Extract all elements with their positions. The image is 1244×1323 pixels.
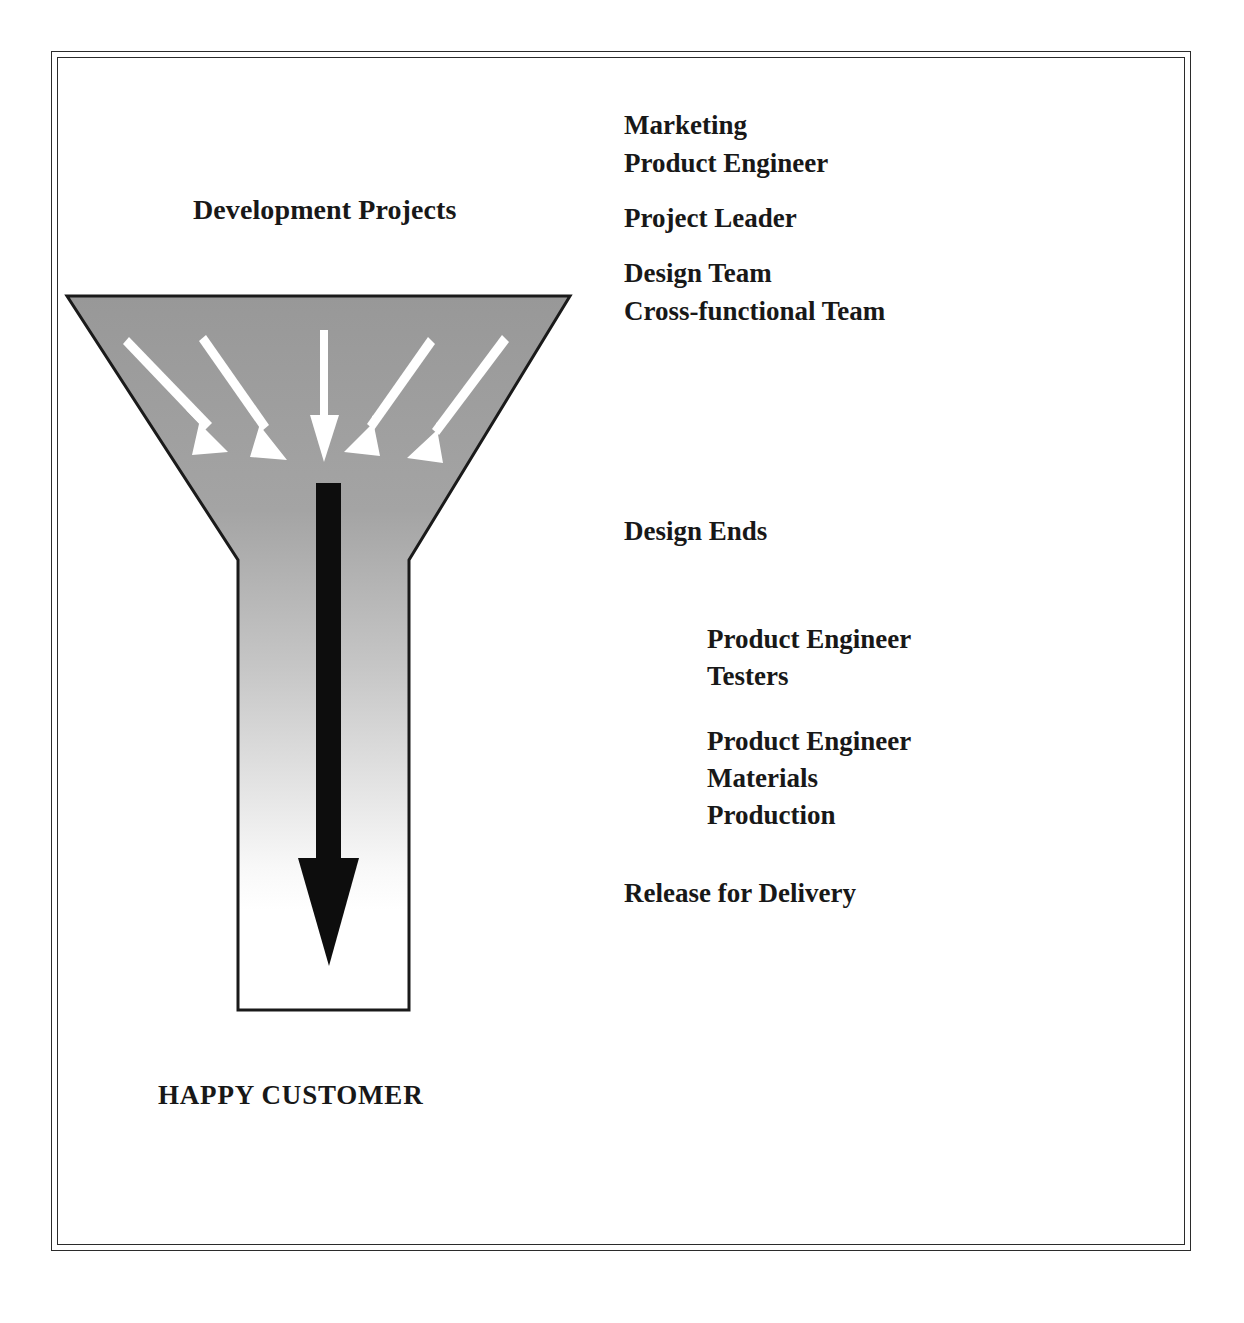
outcome-label-happy-customer: HAPPY CUSTOMER — [158, 1080, 423, 1111]
stage-label-materials: Materials — [707, 765, 911, 792]
stage-label-cross-functional-team: Cross-functional Team — [624, 298, 885, 325]
stage-label-marketing: Marketing — [624, 112, 885, 139]
stage-label-design-team: Design Team — [624, 260, 885, 287]
stage-group-inputs: Marketing Product Engineer Project Leade… — [624, 112, 885, 336]
stage-label-product-engineer-3: Product Engineer — [707, 728, 911, 755]
milestone-design-ends: Design Ends — [624, 518, 767, 545]
stage-group-downstream: Product Engineer Testers Product Enginee… — [707, 626, 911, 839]
milestone-release-for-delivery: Release for Delivery — [624, 880, 856, 907]
stage-label-testers: Testers — [707, 663, 911, 690]
stage-label-product-engineer-1: Product Engineer — [624, 150, 885, 177]
diagram-page: Development Projects Marketing Product E… — [0, 0, 1244, 1323]
stage-label-product-engineer-2: Product Engineer — [707, 626, 911, 653]
page-frame-inner — [57, 57, 1185, 1245]
stage-label-project-leader: Project Leader — [624, 205, 885, 232]
stage-label-production: Production — [707, 802, 911, 829]
page-title: Development Projects — [193, 194, 457, 226]
